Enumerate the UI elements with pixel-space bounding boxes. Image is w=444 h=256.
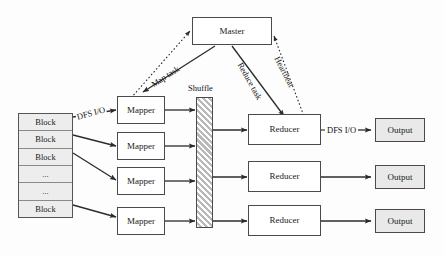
mapper-node-3: Mapper <box>117 167 165 195</box>
edge-block-to-mapper-2 <box>73 135 116 146</box>
output-node-3: Output <box>375 209 425 233</box>
input-block-stack: Block Block Block ... ... Block <box>18 113 73 218</box>
block-row: ... <box>19 183 72 200</box>
edge-mapper-to-master-status <box>131 31 190 98</box>
mapper-node-2: Mapper <box>117 132 165 160</box>
edge-block-to-mapper-4 <box>73 205 116 217</box>
reducer-node-2: Reducer <box>248 161 321 192</box>
block-row: Block <box>19 201 72 217</box>
edge-block-to-mapper-3 <box>73 153 116 180</box>
dfs-io-output-label: DFS I/O <box>326 125 357 135</box>
reducer-node-3: Reducer <box>248 205 321 236</box>
shuffle-label: Shuffle <box>188 83 213 93</box>
block-row: Block <box>19 114 72 131</box>
master-node: Master <box>192 17 272 45</box>
output-node-1: Output <box>375 118 425 142</box>
block-row: Block <box>19 131 72 148</box>
mapper-node-1: Mapper <box>117 96 165 124</box>
block-row: Block <box>19 149 72 166</box>
reducer-node-1: Reducer <box>248 114 321 145</box>
shuffle-bar <box>196 97 213 228</box>
mapreduce-diagram: Block Block Block ... ... Block Master M… <box>0 0 444 256</box>
output-node-2: Output <box>375 165 425 189</box>
mapper-node-4: Mapper <box>117 207 165 235</box>
block-row: ... <box>19 166 72 183</box>
